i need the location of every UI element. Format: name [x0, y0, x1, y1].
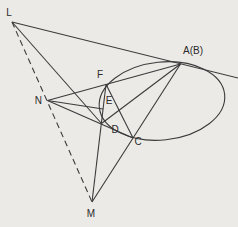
line-L-M-dashed [12, 22, 92, 202]
geometry-diagram: LNMA(B)FEDC [0, 0, 238, 227]
line-A-D [102, 64, 181, 124]
line-N-D-C [48, 101, 134, 139]
label-M: M [87, 208, 95, 219]
line-F-C [106, 84, 133, 138]
label-AB: A(B) [183, 45, 203, 56]
line-L-tangent-AB [12, 22, 238, 78]
label-F: F [97, 69, 103, 80]
line-L-D [12, 22, 102, 124]
label-L: L [6, 7, 12, 18]
label-N: N [35, 95, 42, 106]
diagram-canvas: LNMA(B)FEDC [0, 0, 238, 227]
label-C: C [134, 136, 141, 147]
label-E: E [106, 95, 113, 106]
label-D: D [111, 124, 118, 135]
